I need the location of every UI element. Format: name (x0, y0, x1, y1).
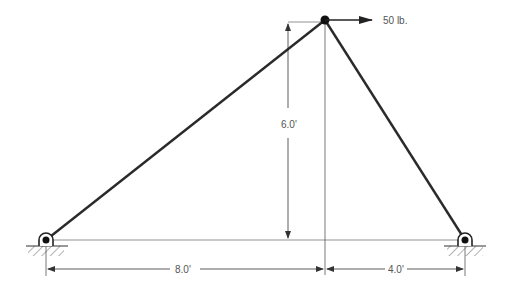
right-pin-support (444, 233, 486, 276)
left-span-dimension: 8.0' (48, 264, 323, 275)
truss-diagram: 6.0' 50 lb. 8.0' 4.0' (0, 0, 511, 289)
right-span-label: 4.0' (388, 264, 404, 275)
left-span-label: 8.0' (175, 264, 191, 275)
load-arrow: 50 lb. (325, 15, 407, 26)
right-span-dimension: 4.0' (327, 264, 463, 275)
height-dimension: 6.0' (281, 22, 325, 238)
load-label: 50 lb. (383, 15, 407, 26)
height-label: 6.0' (281, 119, 297, 130)
left-pin-support (26, 233, 68, 276)
left-member (46, 20, 325, 240)
right-member (325, 20, 465, 240)
